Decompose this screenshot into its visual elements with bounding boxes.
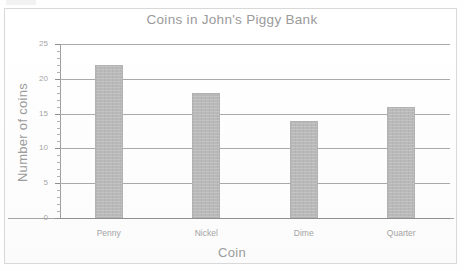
x-tick-label: Dime bbox=[294, 228, 314, 238]
y-tick-label: 5 bbox=[22, 178, 48, 187]
x-tick-label: Quarter bbox=[387, 228, 416, 238]
y-tick-label: 20 bbox=[22, 74, 48, 83]
x-axis-tick-labels: PennyNickelDimeQuarter bbox=[60, 228, 450, 242]
gridline-25 bbox=[60, 44, 450, 45]
y-tick-label: 15 bbox=[22, 109, 48, 118]
y-axis-tick-labels: 0510152025 bbox=[22, 0, 48, 271]
y-tick-label: 10 bbox=[22, 143, 48, 152]
y-tick-label: 0 bbox=[22, 213, 48, 222]
x-tick-label: Nickel bbox=[195, 228, 218, 238]
gridline-0 bbox=[60, 218, 450, 219]
plot-area bbox=[60, 44, 450, 218]
x-tick-label: Penny bbox=[97, 228, 121, 238]
bar-quarter bbox=[387, 107, 415, 218]
y-tick-label: 25 bbox=[22, 39, 48, 48]
bar-chart-figure: Coins in John's Piggy Bank Number of coi… bbox=[0, 0, 464, 271]
chart-title: Coins in John's Piggy Bank bbox=[0, 12, 464, 27]
bar-penny bbox=[95, 65, 123, 218]
bar-nickel bbox=[192, 93, 220, 218]
bar-dime bbox=[290, 121, 318, 218]
x-axis-title: Coin bbox=[0, 245, 464, 260]
